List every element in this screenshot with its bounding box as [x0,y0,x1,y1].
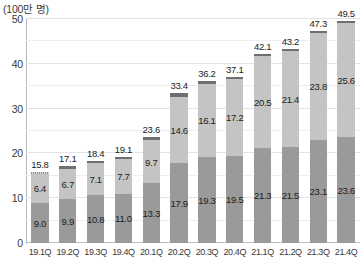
bar-segment-lower[interactable]: 9.0 [31,203,48,243]
bar-slot: 9.713.323.6 [137,19,165,243]
bar-stack[interactable]: 16.119.336.2 [198,81,215,243]
bar-segment-upper[interactable]: 7.1 [87,163,104,195]
x-tick-label-21.2Q: 21.2Q [277,247,305,257]
plot-area: 6.49.015.86.79.917.17.110.818.47.711.019… [26,19,360,243]
segment-value-label: 9.9 [59,215,76,226]
bar-segment-upper[interactable]: 9.7 [143,140,160,183]
bar-total-label: 18.4 [83,148,108,159]
segment-value-label: 16.1 [198,115,215,126]
segment-value-label: 23.6 [337,185,354,196]
bar-slot: 7.110.818.4 [82,19,110,243]
bar-segment-lower[interactable]: 11.0 [115,194,132,243]
segment-value-label: 9.7 [143,156,160,167]
x-tick-label-20.2Q: 20.2Q [165,247,193,257]
segment-value-label: 7.1 [87,173,104,184]
bar-segment-lower[interactable]: 21.5 [282,147,299,243]
bar-segment-upper[interactable]: 21.4 [282,51,299,147]
segment-value-label: 13.3 [143,208,160,219]
y-tick-label-0: 0 [1,237,23,249]
segment-value-label: 9.0 [31,217,48,228]
bar-segment-lower[interactable]: 21.3 [254,148,271,243]
bar-slot: 6.79.917.1 [54,19,82,243]
x-tick-label-20.4Q: 20.4Q [221,247,249,257]
bar-total-label: 36.2 [194,68,219,79]
bar-segment-lower[interactable]: 17.9 [170,163,187,243]
bar-segment-upper[interactable]: 17.2 [226,79,243,156]
segment-value-label: 20.5 [254,96,271,107]
bar-total-label: 43.2 [278,36,303,47]
x-tick-label-19.4Q: 19.4Q [110,247,138,257]
bar-total-label: 37.1 [222,64,247,75]
bar-stack[interactable]: 23.823.147.3 [310,31,327,243]
segment-value-label: 21.3 [254,190,271,201]
bar-stack[interactable]: 25.623.649.5 [337,21,354,243]
bar-slot: 23.823.147.3 [304,19,332,243]
y-tick-label-20: 20 [1,147,23,159]
bar-slot: 25.623.649.5 [332,19,360,243]
bar-slot: 6.49.015.8 [26,19,54,243]
bar-stack[interactable]: 7.110.818.4 [87,161,104,243]
bar-total-label: 49.5 [333,8,358,19]
bar-total-label: 19.1 [111,144,136,155]
y-tick-label-30: 30 [1,103,23,115]
stacked-bar-chart: (100만 명) 01020304050 6.49.015.86.79.917.… [0,0,364,268]
bar-stack[interactable]: 14.617.933.4 [170,93,187,243]
bar-stack[interactable]: 6.49.015.8 [31,172,48,243]
bar-segment-upper[interactable]: 14.6 [170,97,187,162]
x-tick-label-20.1Q: 20.1Q [137,247,165,257]
bar-segment-lower[interactable]: 23.1 [310,140,327,243]
segment-value-label: 17.2 [226,112,243,123]
bar-segment-lower[interactable]: 23.6 [337,137,354,243]
segment-value-label: 6.4 [31,183,48,194]
bar-stack[interactable]: 9.713.323.6 [143,137,160,243]
x-tick-label-21.3Q: 21.3Q [304,247,332,257]
segment-value-label: 14.6 [170,125,187,136]
segment-value-label: 7.7 [115,171,132,182]
bar-slot: 7.711.019.1 [110,19,138,243]
bar-segment-lower[interactable]: 10.8 [87,195,104,243]
bar-total-label: 17.1 [55,153,80,164]
bar-stack[interactable]: 20.521.342.1 [254,54,271,243]
segment-value-label: 23.1 [310,186,327,197]
bar-slot: 16.119.336.2 [193,19,221,243]
x-axis-tick-labels: 19.1Q19.2Q19.3Q19.4Q20.1Q20.2Q20.3Q20.4Q… [26,247,360,263]
bar-stack[interactable]: 7.711.019.1 [115,157,132,243]
bar-segment-upper[interactable]: 25.6 [337,23,354,138]
bar-segment-lower[interactable]: 19.3 [198,157,215,243]
segment-value-label: 25.6 [337,74,354,85]
x-tick-label-19.3Q: 19.3Q [82,247,110,257]
bar-stack[interactable]: 6.79.917.1 [59,166,76,243]
segment-value-label: 19.5 [226,194,243,205]
y-tick-label-40: 40 [1,58,23,70]
segment-value-label: 6.7 [59,178,76,189]
segment-value-label: 17.9 [170,197,187,208]
segment-value-label: 19.3 [198,194,215,205]
bar-slot: 20.521.342.1 [249,19,277,243]
bar-segment-lower[interactable]: 13.3 [143,183,160,243]
x-tick-label-21.1Q: 21.1Q [249,247,277,257]
segment-value-label: 23.8 [310,81,327,92]
bar-segment-upper[interactable]: 6.7 [59,169,76,199]
y-tick-label-10: 10 [1,192,23,204]
bar-slot: 17.219.537.1 [221,19,249,243]
y-axis-tick-labels: 01020304050 [0,19,23,243]
bar-segment-upper[interactable]: 23.8 [310,33,327,140]
bar-segment-upper[interactable]: 7.7 [115,159,132,193]
x-tick-label-19.1Q: 19.1Q [26,247,54,257]
bar-total-label: 33.4 [166,80,191,91]
bar-stack[interactable]: 21.421.543.2 [282,49,299,243]
bar-total-label: 42.1 [250,41,275,52]
bar-segment-upper[interactable]: 16.1 [198,84,215,156]
x-tick-label-21.4Q: 21.4Q [332,247,360,257]
x-tick-label-20.3Q: 20.3Q [193,247,221,257]
bar-segment-lower[interactable]: 9.9 [59,199,76,243]
segment-value-label: 21.5 [282,189,299,200]
segment-value-label: 21.4 [282,93,299,104]
bar-segment-lower[interactable]: 19.5 [226,156,243,243]
bar-stack[interactable]: 17.219.537.1 [226,77,243,243]
bar-segment-upper[interactable]: 6.4 [31,174,48,203]
bar-total-label: 23.6 [139,124,164,135]
segment-value-label: 11.0 [115,213,132,224]
bar-segment-upper[interactable]: 20.5 [254,56,271,148]
bar-total-label: 15.8 [27,159,52,170]
